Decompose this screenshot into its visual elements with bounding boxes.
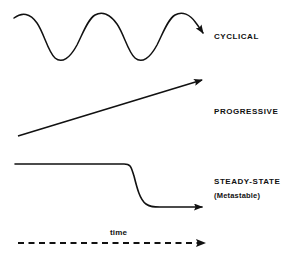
label-progressive: PROGRESSIVE (214, 108, 278, 116)
curve-progressive (18, 80, 202, 136)
label-steady-state: STEADY-STATE (214, 178, 280, 186)
label-time-axis: time (110, 229, 127, 237)
curve-steady-state (15, 164, 202, 207)
label-metastable: (Metastable) (214, 192, 260, 200)
label-cyclical: CYCLICAL (214, 33, 259, 41)
curve-cyclical (14, 13, 203, 60)
figure-temporal-patterns: CYCLICAL PROGRESSIVE STEADY-STATE (Metas… (0, 0, 293, 254)
